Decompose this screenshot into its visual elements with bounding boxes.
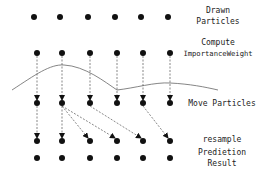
weight-curve [12,65,218,90]
particle-dot-resample [59,138,65,144]
resample-arrow [143,106,168,138]
particle-dot-resample [34,138,40,144]
label-resample: resample [203,135,242,144]
label-move: Move Particles [188,99,256,108]
particle-dot-result [114,155,120,161]
particle-dot-move [114,100,120,106]
particle-dot-weight [87,50,93,56]
particle-dot-weight [59,50,65,56]
particle-dot-resample [140,138,146,144]
label-result-1: Predietion [198,148,246,157]
particle-dot-weight [34,50,40,56]
particle-filter-diagram: Drawn Particles Compute ImportanceWeight… [0,0,262,175]
particle-dot-result [59,155,65,161]
particle-dot-weight [167,50,173,56]
label-drawn-1: Drawn [206,6,230,15]
particle-dot-move [167,100,173,106]
particle-dot-move [87,100,93,106]
particle-dot-drawn [138,14,144,20]
label-weight-1: Compute [201,38,235,47]
particles [31,14,173,161]
particle-dot-drawn [165,14,171,20]
particle-dot-drawn [112,14,118,20]
particle-dot-move [59,100,65,106]
particle-dot-drawn [31,14,37,20]
particle-dot-result [87,155,93,161]
stage-labels: Drawn Particles Compute ImportanceWeight… [183,6,256,168]
particle-dot-weight [140,50,146,56]
likelihood-curve [12,65,218,90]
resample-arrow [90,106,141,138]
particle-dot-move [34,100,40,106]
arrows [37,56,170,138]
particle-dot-resample [114,138,120,144]
label-drawn-2: Particles [196,17,240,26]
resample-arrow [62,106,115,138]
label-weight-2: ImportanceWeight [183,49,252,58]
particle-dot-drawn [85,14,91,20]
label-result-2: Result [208,159,237,168]
particle-dot-result [34,155,40,161]
particle-dot-resample [87,138,93,144]
resample-arrow [62,106,88,138]
particle-dot-move [140,100,146,106]
particle-dot-resample [167,138,173,144]
particle-dot-result [167,155,173,161]
particle-dot-result [140,155,146,161]
particle-dot-weight [114,50,120,56]
particle-dot-drawn [57,14,63,20]
